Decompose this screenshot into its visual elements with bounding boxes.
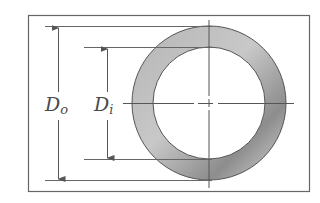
outer-diameter-symbol: D bbox=[44, 93, 60, 115]
inner-diameter-label: Di bbox=[93, 93, 113, 117]
outer-diameter-subscript: o bbox=[60, 102, 68, 117]
inner-diameter-symbol: D bbox=[93, 93, 109, 115]
pipe-cross-section-diagram: Do Di bbox=[0, 0, 320, 203]
inner-diameter-subscript: i bbox=[109, 102, 113, 117]
outer-diameter-label: Do bbox=[44, 93, 68, 117]
